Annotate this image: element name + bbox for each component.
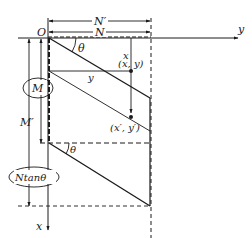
point-xy (129, 69, 133, 73)
dim-M-prime-label: M′ (19, 116, 34, 129)
origin-label: O (37, 26, 46, 39)
dim-M-label: M (31, 82, 44, 95)
sheared-bottom-edge (49, 143, 150, 206)
dim-Ntan-label: Ntanθ (14, 172, 46, 183)
y-coordinate-label: y (87, 72, 94, 83)
angle-arc-bottom (66, 143, 69, 154)
y-axis-label: y (237, 23, 245, 36)
x-axis-label: x (36, 220, 43, 233)
angle-arc-top (72, 38, 76, 52)
dim-N-label: N (94, 26, 105, 39)
angle-label-top: θ (78, 42, 85, 55)
point-xy-prime (129, 115, 133, 119)
point-xy-label: (x, y) (118, 58, 144, 69)
point-xy-prime-label: (x′, y′) (110, 122, 140, 133)
angle-label-bottom: θ (70, 144, 76, 155)
shear-transform-diagram: O y x N′ N θ θ x (x, y) y (x′, y′) M M′ … (0, 0, 252, 238)
